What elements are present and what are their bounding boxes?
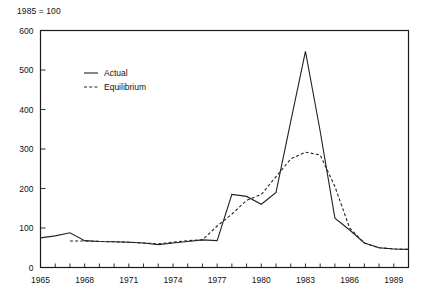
line-chart-svg: 0100200300400500600 19651968197119741977… <box>0 0 426 307</box>
x-tick-label: 1977 <box>208 275 227 285</box>
x-axis-labels: 196519681971197419771980198319861989 <box>31 275 403 285</box>
y-tick-label: 0 <box>29 263 34 273</box>
y-tick-label: 600 <box>19 26 33 36</box>
y-tick-label: 300 <box>19 144 33 154</box>
y-tick-label: 100 <box>19 223 33 233</box>
legend-label-actual: Actual <box>104 68 128 78</box>
y-tick-label: 500 <box>19 65 33 75</box>
data-series-group <box>41 51 409 249</box>
y-tick-label: 200 <box>19 184 33 194</box>
chart-figure: 1985 = 100 0100200300400500600 196519681… <box>0 0 426 307</box>
x-tick-label: 1980 <box>252 275 271 285</box>
series-line-equilibrium <box>70 152 409 249</box>
chart-legend: ActualEquilibrium <box>84 68 146 92</box>
y-tick-label: 400 <box>19 105 33 115</box>
x-tick-label: 1989 <box>384 275 403 285</box>
x-tick-label: 1974 <box>164 275 183 285</box>
x-tick-label: 1965 <box>31 275 50 285</box>
legend-label-equilibrium: Equilibrium <box>104 82 146 92</box>
x-tick-label: 1983 <box>296 275 315 285</box>
x-tick-label: 1971 <box>119 275 138 285</box>
y-axis-ticks <box>41 70 46 228</box>
x-axis-ticks <box>55 264 394 268</box>
y-axis-labels: 0100200300400500600 <box>19 26 33 273</box>
x-tick-label: 1968 <box>75 275 94 285</box>
x-tick-label: 1986 <box>340 275 359 285</box>
